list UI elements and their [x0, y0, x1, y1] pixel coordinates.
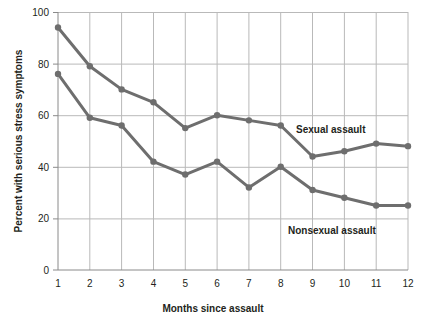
data-point: [150, 99, 156, 105]
data-point: [118, 122, 124, 128]
data-point: [405, 143, 411, 149]
xtick-label-3: 3: [119, 278, 125, 289]
data-point: [246, 117, 252, 123]
data-point: [55, 71, 61, 77]
line-chart: 100 80 60 40 20 0 1 2 3 4 5 6 7 8 9 10 1…: [0, 0, 426, 326]
xtick-label-8: 8: [278, 278, 284, 289]
data-point: [309, 153, 315, 159]
ytick-label-60: 60: [38, 110, 50, 121]
data-point: [182, 125, 188, 131]
xtick-label-5: 5: [183, 278, 189, 289]
y-axis-ticks: [53, 13, 58, 271]
data-point: [341, 195, 347, 201]
x-axis-title: Months since assault: [162, 303, 264, 314]
data-point: [87, 115, 93, 121]
ytick-label-100: 100: [32, 7, 49, 18]
data-point: [278, 122, 284, 128]
data-point: [373, 202, 379, 208]
y-axis-title: Percent with serious stress symptoms: [13, 49, 24, 232]
data-point: [246, 184, 252, 190]
data-point: [309, 187, 315, 193]
xtick-label-11: 11: [371, 278, 382, 289]
xtick-label-1: 1: [55, 278, 61, 289]
y-axis-tick-labels: 100 80 60 40 20 0: [32, 7, 49, 276]
xtick-label-12: 12: [402, 278, 414, 289]
ytick-label-20: 20: [38, 213, 50, 224]
ytick-label-80: 80: [38, 59, 50, 70]
data-point: [118, 86, 124, 92]
series-annotation-sexual-assault: Sexual assault: [296, 124, 366, 135]
data-point: [150, 158, 156, 164]
series-annotation-nonsexual-assault: Nonsexual assault: [288, 225, 376, 236]
data-point: [341, 148, 347, 154]
xtick-label-2: 2: [87, 278, 93, 289]
xtick-label-6: 6: [214, 278, 220, 289]
ytick-label-40: 40: [38, 162, 50, 173]
xtick-label-7: 7: [246, 278, 252, 289]
chart-figure: 100 80 60 40 20 0 1 2 3 4 5 6 7 8 9 10 1…: [0, 0, 426, 326]
data-point: [182, 171, 188, 177]
data-point: [214, 158, 220, 164]
x-axis-tick-labels: 1 2 3 4 5 6 7 8 9 10 11 12: [55, 278, 414, 289]
ytick-label-0: 0: [43, 265, 49, 276]
data-point: [55, 24, 61, 30]
data-point: [405, 202, 411, 208]
xtick-label-4: 4: [151, 278, 157, 289]
data-point: [373, 140, 379, 146]
data-point: [278, 164, 284, 170]
data-point: [87, 63, 93, 69]
data-point: [214, 112, 220, 118]
xtick-label-9: 9: [310, 278, 316, 289]
xtick-label-10: 10: [339, 278, 351, 289]
